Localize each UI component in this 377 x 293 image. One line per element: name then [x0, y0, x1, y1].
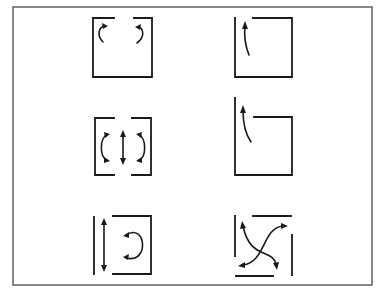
panel-a-left-arrow — [99, 26, 105, 42]
arrowhead — [123, 232, 129, 238]
panel-c-right-c-arrow — [139, 135, 145, 160]
panel-a — [93, 18, 152, 77]
arrowhead — [136, 157, 142, 163]
panel-c-left-bracket — [95, 118, 114, 175]
panel-b-rising-arrow — [245, 26, 249, 55]
panel-f-s-arrow-2 — [243, 226, 283, 265]
arrowhead — [273, 262, 279, 270]
arrowhead — [120, 130, 126, 137]
arrowhead — [123, 254, 129, 260]
arrowhead — [281, 223, 288, 229]
arrowhead — [104, 132, 110, 138]
panel-d — [235, 98, 292, 175]
panel-e — [94, 216, 151, 274]
arrowhead — [135, 24, 141, 30]
arrowhead — [240, 105, 246, 113]
arrowhead — [104, 157, 110, 163]
arrowhead — [120, 158, 126, 165]
diagram-figure — [0, 0, 377, 293]
outer-frame — [13, 7, 372, 285]
panel-d-rising-arrow — [243, 110, 251, 142]
panel-c-left-c-arrow — [101, 135, 107, 160]
arrowhead — [102, 23, 108, 29]
arrowhead — [101, 218, 107, 225]
panel-e-right-bracket — [113, 216, 151, 274]
arrowhead — [101, 265, 107, 272]
panel-c — [95, 118, 151, 175]
diagram-canvas — [0, 0, 377, 293]
arrowhead — [242, 21, 248, 29]
panel-c-right-bracket — [132, 118, 151, 175]
panel-b — [235, 18, 292, 77]
panel-f — [235, 216, 292, 276]
arrowhead — [136, 132, 142, 138]
arrowhead — [238, 262, 245, 268]
arrowhead — [240, 221, 246, 229]
